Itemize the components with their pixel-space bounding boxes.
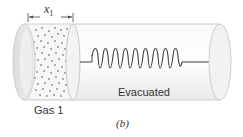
left-end-cap <box>13 24 35 100</box>
piston <box>66 24 80 100</box>
right-end-cap <box>209 24 231 100</box>
gas-label: Gas 1 <box>34 104 63 116</box>
evacuated-label: Evacuated <box>118 86 170 98</box>
dimension-label: x1 <box>44 2 53 18</box>
figure-caption: (b) <box>116 117 129 129</box>
